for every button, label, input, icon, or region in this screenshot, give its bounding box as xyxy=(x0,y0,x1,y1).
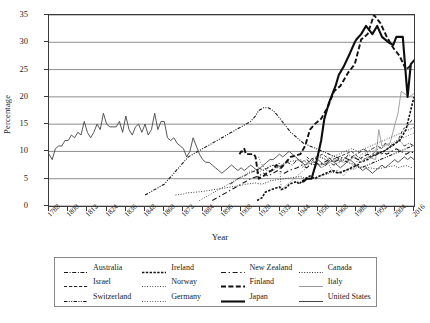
legend-item-label: Australia xyxy=(93,263,122,272)
legend-item-label: Finland xyxy=(250,277,274,286)
legend-line-swatch xyxy=(63,263,89,272)
legend-item-label: Japan xyxy=(250,292,268,301)
y-axis-tick-label: 20 xyxy=(4,91,28,101)
y-axis-tick-label: 25 xyxy=(4,64,28,74)
legend-item-ireland: Ireland xyxy=(137,263,215,272)
legend-item-label: Canada xyxy=(328,263,352,272)
legend-grid: AustraliaIrelandNew ZealandCanadaIsraelN… xyxy=(55,258,376,306)
x-axis-title-text: Year xyxy=(212,232,229,242)
legend-item-label: Germany xyxy=(171,292,201,301)
legend-item-italy: Italy xyxy=(294,277,372,286)
series-line-japan xyxy=(302,26,414,182)
y-axis-tick-label: 30 xyxy=(4,36,28,46)
legend-line-swatch xyxy=(220,292,246,301)
legend-line-swatch xyxy=(141,292,167,301)
legend-item-new-zealand: New Zealand xyxy=(216,263,294,272)
y-axis-tick-label: 15 xyxy=(4,118,28,128)
x-axis-title: Year xyxy=(0,232,430,242)
legend-item-label: New Zealand xyxy=(250,263,293,272)
y-axis: 05101520253035 xyxy=(0,0,48,220)
legend-line-swatch xyxy=(220,263,246,272)
legend-item-norway: Norway xyxy=(137,277,215,286)
legend-item-united-states: United States xyxy=(294,292,372,301)
series-canvas xyxy=(49,15,414,206)
legend-item-israel: Israel xyxy=(59,277,137,286)
chart-legend: AustraliaIrelandNew ZealandCanadaIsraelN… xyxy=(54,257,377,307)
legend-item-canada: Canada xyxy=(294,263,372,272)
legend-item-japan: Japan xyxy=(216,292,294,301)
plot-area xyxy=(48,14,415,207)
legend-item-label: Italy xyxy=(328,277,343,286)
legend-item-label: Switzerland xyxy=(93,292,131,301)
y-axis-tick-label: 10 xyxy=(4,145,28,155)
legend-line-swatch xyxy=(141,277,167,286)
line-chart-figure: Percentage 05101520253035 17881800181218… xyxy=(0,0,430,248)
legend-item-finland: Finland xyxy=(216,277,294,286)
legend-item-label: United States xyxy=(328,292,371,301)
legend-item-label: Norway xyxy=(171,277,197,286)
legend-item-australia: Australia xyxy=(59,263,137,272)
legend-item-label: Israel xyxy=(93,277,111,286)
y-axis-tick-label: 5 xyxy=(4,173,28,183)
legend-line-swatch xyxy=(298,277,324,286)
legend-line-swatch xyxy=(298,263,324,272)
legend-item-label: Ireland xyxy=(171,263,194,272)
legend-line-swatch xyxy=(141,263,167,272)
legend-line-swatch xyxy=(63,292,89,301)
legend-line-swatch xyxy=(298,292,324,301)
series-line-united-states xyxy=(49,113,414,173)
y-axis-tick-label: 0 xyxy=(4,200,28,210)
chart-figure-root: Percentage 05101520253035 17881800181218… xyxy=(0,0,430,323)
legend-line-swatch xyxy=(63,277,89,286)
series-line-canada xyxy=(175,166,412,195)
series-line-italy xyxy=(302,91,414,167)
legend-line-swatch xyxy=(220,277,246,286)
legend-item-germany: Germany xyxy=(137,292,215,301)
plot-area-wrapper xyxy=(48,14,415,207)
y-axis-tick-label: 35 xyxy=(4,9,28,19)
legend-item-switzerland: Switzerland xyxy=(59,292,137,301)
series-line-australia xyxy=(230,141,414,185)
series-line-ireland xyxy=(257,97,414,201)
